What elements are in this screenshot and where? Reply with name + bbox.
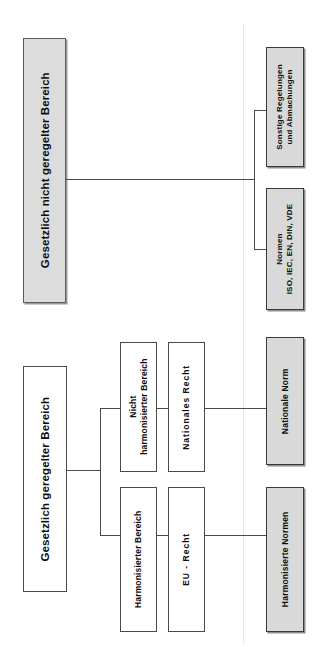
connector-nationales-recht-to-nationale-norm [205,408,266,409]
node-nationales-recht[interactable]: Nationales Recht [168,342,205,472]
node-label-block: Normen ISO, IEC, EN, DIN, VDE [275,204,295,295]
connector-nicht-harmonisiert-to-nationales-recht [157,408,168,409]
node-label: EU - Recht [181,533,192,586]
node-harmonisierter-bereich[interactable]: Harmonisierter Bereich [120,487,157,632]
node-gesetzlich-nicht-geregelter-bereich[interactable]: Gesetzlich nicht geregelter Bereich [23,38,66,303]
node-label: Gesetzlich nicht geregelter Bereich [37,73,51,269]
connector-eu-recht-to-harmonisierte-normen [205,535,266,536]
node-label-line1: Normen [275,233,284,264]
node-label-line1: Sonstige Regelungen [275,64,284,150]
page-divider-line [243,24,244,644]
connector-split-bar-bereiche [100,408,101,536]
node-nationale-norm[interactable]: Nationale Norm [266,337,304,465]
connector-split-bar-nicht-geregelt [254,110,255,250]
node-label-line2: harmonisierter Bereich [139,359,149,455]
node-label-block: Sonstige Regelungen und Abmachungen [275,64,295,150]
node-label-line1: Nicht [128,396,138,418]
connector-root-trunk-nicht-geregelt [66,179,254,180]
node-label-line2: ISO, IEC, EN, DIN, VDE [285,204,294,295]
node-label: Nationales Recht [181,365,192,450]
node-nicht-harmonisierter-bereich[interactable]: Nicht harmonisierter Bereich [120,342,157,472]
node-label: Harmonisierte Normen [280,512,291,608]
node-gesetzlich-geregelter-bereich[interactable]: Gesetzlich geregelter Bereich [23,366,67,592]
connector-root-trunk-geregelt [67,470,100,471]
node-eu-recht[interactable]: EU - Recht [168,487,205,632]
node-label: Gesetzlich geregelter Bereich [38,397,52,562]
node-label-block: Nicht harmonisierter Bereich [128,359,149,455]
connector-harmonisiert-to-eu-recht [157,535,168,536]
node-normen[interactable]: Normen ISO, IEC, EN, DIN, VDE [266,188,304,310]
node-sonstige-regelungen-und-abmachungen[interactable]: Sonstige Regelungen und Abmachungen [266,47,304,167]
node-harmonisierte-normen[interactable]: Harmonisierte Normen [266,487,304,632]
diagram-canvas: Gesetzlich nicht geregelter Bereich Sons… [0,0,327,647]
node-label: Nationale Norm [280,368,291,434]
node-label-line2: und Abmachungen [285,69,294,144]
node-label: Harmonisierter Bereich [133,511,144,608]
connector-stub-normen [254,249,266,250]
connector-stub-sonstige-regelungen [254,110,266,111]
connector-stub-harmonisierter-bereich [100,535,120,536]
connector-stub-nicht-harmonisierter-bereich [100,408,120,409]
